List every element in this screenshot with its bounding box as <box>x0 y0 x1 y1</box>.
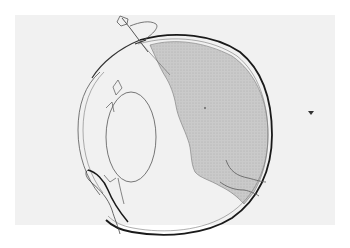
eye-illustration <box>0 0 350 248</box>
eyelid-icon <box>86 170 120 234</box>
lens-icon <box>106 92 156 182</box>
vitreous-icon <box>150 42 268 204</box>
figure-canvas <box>0 0 350 248</box>
shaded-dot <box>204 107 206 109</box>
cornea-icon <box>78 72 100 195</box>
arrowhead-icon <box>308 111 314 115</box>
